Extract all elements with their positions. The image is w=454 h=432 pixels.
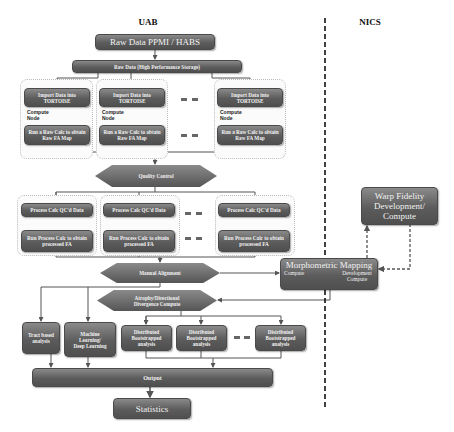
raw-calc-box-2: Run a Raw Calc to obtain Raw FA Map	[99, 125, 165, 145]
morphometric-compute-label: Compute	[284, 270, 304, 282]
distributed-analysis-box-3: Distributed Bootstrapped analysis	[255, 325, 306, 351]
ellipsis-dash	[181, 134, 187, 137]
quality-control-text: Quality Control	[138, 173, 173, 179]
output-bar: Output	[32, 368, 273, 387]
ellipsis-dash	[192, 134, 198, 137]
atrophy-text: Atrophy/Directional Divergence Compute	[127, 295, 187, 307]
process-calc-box-3: Run Process Calc to obtain processed FA	[218, 230, 290, 252]
raw-data-storage-box: Raw Data (High Performance Storage)	[72, 60, 242, 73]
tract-analysis-box: Tract based analysis	[22, 322, 60, 354]
process-qc-text: Process Calc QC'd Data	[30, 207, 83, 213]
warp-fidelity-box: Warp Fidelity Development/ Compute	[361, 187, 438, 225]
statistics-box: Statistics	[113, 398, 191, 419]
distributed-analysis-text: Distributed Bootstrapped analysis	[259, 329, 303, 347]
output-text: Output	[143, 375, 162, 381]
raw-calc-text: Run a Raw Calc to obtain Raw FA Map	[25, 129, 89, 141]
process-calc-text: Run Process Calc to obtain processed FA	[104, 235, 174, 247]
tract-analysis-text: Tract based analysis	[28, 332, 54, 344]
process-calc-box-1: Run Process Calc to obtain processed FA	[21, 230, 93, 252]
import-data-text: Import Data into TORTOISE	[218, 92, 282, 104]
process-qc-box-3: Process Calc QC'd Data	[218, 203, 290, 217]
compute-node-label-1: Compute Node	[27, 110, 53, 121]
nics-label: NICS	[350, 17, 390, 27]
distributed-analysis-text: Distributed Bootstrapped analysis	[180, 329, 224, 347]
process-qc-text: Process Calc QC'd Data	[227, 207, 280, 213]
distributed-analysis-box-2: Distributed Bootstrapped analysis	[176, 325, 227, 351]
compute-node-label-2: Compute Node	[102, 110, 128, 121]
machine-learning-text: Machine Learning/ Deep Learning	[73, 331, 107, 349]
import-data-box-3: Import Data into TORTOISE	[217, 88, 283, 107]
process-qc-text: Process Calc QC'd Data	[112, 207, 165, 213]
compute-node-label-3: Compute Node	[220, 110, 246, 121]
distributed-analysis-text: Distributed Bootstrapped analysis	[125, 329, 169, 347]
ellipsis-dash	[244, 336, 250, 339]
machine-learning-box: Machine Learning/ Deep Learning	[64, 322, 116, 357]
morphometric-development-label: Development Compute	[340, 270, 374, 282]
ellipsis-dash	[192, 98, 198, 101]
ellipsis-dash	[185, 237, 191, 240]
ellipsis-dash	[181, 98, 187, 101]
process-calc-box-2: Run Process Calc to obtain processed FA	[103, 230, 175, 252]
morphometric-mapping-box: Morphometric Mapping Compute Development…	[280, 258, 378, 290]
import-data-text: Import Data into TORTOISE	[25, 92, 89, 104]
raw-calc-box-3: Run a Raw Calc to obtain Raw FA Map	[217, 125, 283, 145]
manual-alignment-text: Manual Alignment	[139, 270, 181, 276]
process-calc-text: Run Process Calc to obtain processed FA	[219, 235, 289, 247]
morphometric-title: Morphometric Mapping	[281, 260, 377, 270]
ellipsis-dash	[196, 237, 202, 240]
ellipsis-dash	[234, 336, 240, 339]
uab-label: UAB	[128, 17, 168, 27]
statistics-text: Statistics	[136, 404, 169, 414]
raw-calc-text: Run a Raw Calc to obtain Raw FA Map	[100, 129, 164, 141]
process-qc-box-1: Process Calc QC'd Data	[21, 203, 93, 217]
import-data-box-1: Import Data into TORTOISE	[24, 88, 90, 107]
process-calc-text: Run Process Calc to obtain processed FA	[22, 235, 92, 247]
raw-data-source-text: Raw Data PPMI / HABS	[110, 37, 200, 47]
import-data-box-2: Import Data into TORTOISE	[99, 88, 165, 107]
raw-calc-text: Run a Raw Calc to obtain Raw FA Map	[218, 129, 282, 141]
distributed-analysis-box-1: Distributed Bootstrapped analysis	[121, 325, 172, 351]
raw-data-storage-text: Raw Data (High Performance Storage)	[114, 64, 200, 70]
quality-control-decision: Quality Control	[95, 165, 217, 187]
import-data-text: Import Data into TORTOISE	[100, 92, 164, 104]
warp-fidelity-text: Warp Fidelity Development/ Compute	[362, 191, 437, 221]
ellipsis-dash	[185, 212, 191, 215]
raw-data-source-box: Raw Data PPMI / HABS	[95, 34, 215, 50]
manual-alignment-decision: Manual Alignment	[100, 263, 220, 283]
raw-calc-box-1: Run a Raw Calc to obtain Raw FA Map	[24, 125, 90, 145]
ellipsis-dash	[196, 212, 202, 215]
atrophy-decision: Atrophy/Directional Divergence Compute	[97, 290, 217, 311]
process-qc-box-2: Process Calc QC'd Data	[103, 203, 175, 217]
